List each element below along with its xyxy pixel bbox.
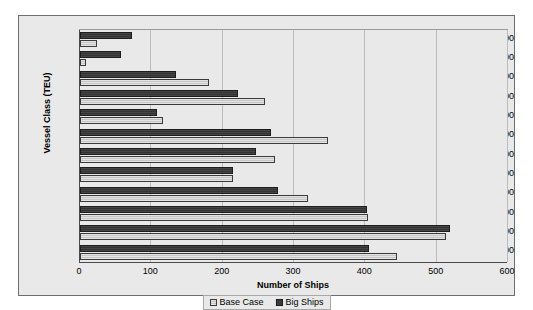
bar-group (79, 185, 507, 204)
bar-base-case (80, 117, 163, 124)
plot-area (79, 29, 508, 262)
x-tick-300: 300 (273, 266, 313, 276)
bar-base-case (80, 253, 397, 260)
y-axis-line (79, 30, 80, 262)
bar-group (79, 127, 507, 146)
bar-big-ships (80, 167, 233, 174)
x-tick-0: 0 (59, 266, 99, 276)
bar-group (79, 204, 507, 223)
chart-legend: Base CaseBig Ships (202, 295, 330, 310)
y-axis-title: Vessel Class (TEU) (42, 38, 52, 188)
x-axis-line (79, 262, 507, 263)
legend-swatch-big-icon (276, 299, 283, 306)
bar-big-ships (80, 187, 278, 194)
bar-big-ships (80, 90, 238, 97)
bar-base-case (80, 233, 446, 240)
bar-base-case (80, 98, 265, 105)
plot-inner (79, 30, 507, 262)
bar-group (79, 69, 507, 88)
x-tick-600: 600 (487, 266, 527, 276)
legend-item-base: Base Case (209, 297, 263, 307)
bar-group (79, 49, 507, 68)
x-tick-200: 200 (202, 266, 242, 276)
bar-base-case (80, 156, 275, 163)
bar-base-case (80, 137, 328, 144)
bar-big-ships (80, 109, 157, 116)
bar-base-case (80, 175, 233, 182)
x-tick-500: 500 (416, 266, 456, 276)
bar-big-ships (80, 225, 450, 232)
x-tick-100: 100 (130, 266, 170, 276)
bar-big-ships (80, 51, 121, 58)
bar-group (79, 88, 507, 107)
legend-label: Big Ships (286, 297, 324, 307)
bar-group (79, 30, 507, 49)
gridline-600 (507, 30, 508, 262)
legend-swatch-base-icon (209, 299, 216, 306)
legend-label: Base Case (219, 297, 263, 307)
bar-big-ships (80, 148, 256, 155)
bar-group (79, 107, 507, 126)
x-axis-title: Number of Ships (79, 280, 507, 290)
bar-big-ships (80, 245, 369, 252)
x-axis-tick-labels: 0100200300400500600 (79, 266, 507, 278)
x-tick-400: 400 (344, 266, 384, 276)
bar-big-ships (80, 32, 132, 39)
bar-group (79, 243, 507, 262)
bar-base-case (80, 79, 209, 86)
bar-big-ships (80, 206, 367, 213)
bar-big-ships (80, 129, 271, 136)
chart-frame: Vessel Class (TEU) 12,00010,0008,0006,00… (18, 15, 515, 296)
bar-group (79, 165, 507, 184)
bar-base-case (80, 214, 368, 221)
bar-base-case (80, 195, 308, 202)
bar-base-case (80, 40, 97, 47)
bar-base-case (80, 59, 86, 66)
legend-item-big: Big Ships (276, 297, 324, 307)
bar-group (79, 223, 507, 242)
bar-big-ships (80, 71, 176, 78)
bar-group (79, 146, 507, 165)
